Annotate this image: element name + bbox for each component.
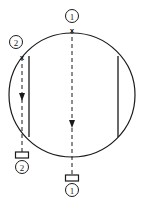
cutting-plane-1-arrowhead — [69, 120, 75, 128]
cutting-plane-2-arrowhead — [19, 93, 25, 101]
cutting-plane-1-flag — [66, 175, 79, 181]
cutting-plane-2-bottom-label: 2 — [20, 163, 25, 173]
cutting-plane-2: x 2 2 — [10, 36, 29, 174]
diagram-canvas: x 2 2 x 1 1 — [0, 0, 145, 199]
cutting-plane-2-flag — [16, 152, 29, 158]
cutting-plane-2-top-label: 2 — [14, 38, 19, 48]
cutting-plane-1-bottom-label: 1 — [70, 186, 75, 196]
technical-drawing-figure: x 2 2 x 1 1 — [0, 0, 145, 199]
cutting-plane-1-x-mark: x — [70, 26, 75, 35]
cutting-plane-1: x 1 1 — [66, 10, 79, 197]
cutting-plane-2-x-mark: x — [20, 53, 25, 62]
cutting-plane-1-top-label: 1 — [70, 12, 75, 22]
